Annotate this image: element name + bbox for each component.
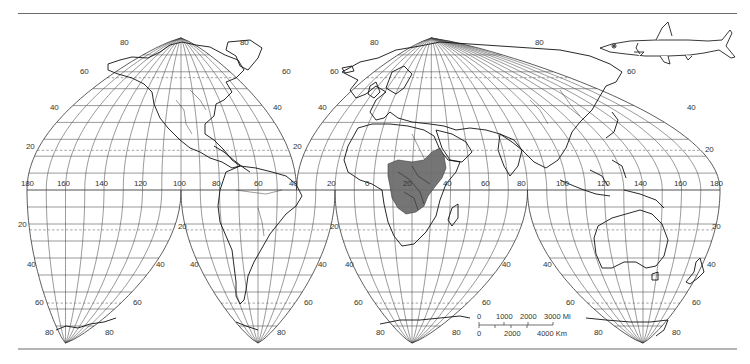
- longitude-label: 60: [254, 180, 263, 188]
- latitude-label: 60: [80, 68, 89, 76]
- latitude-label: 60: [482, 299, 491, 307]
- longitude-label: 180: [710, 180, 723, 188]
- latitude-label: 40: [50, 104, 59, 112]
- longitude-label: 180: [21, 180, 34, 188]
- meridian: [66, 190, 143, 343]
- latitude-label: 20: [705, 146, 714, 154]
- meridian: [431, 38, 643, 190]
- latitude-label: 40: [687, 104, 696, 112]
- latitude-label: 60: [133, 299, 142, 307]
- latitude-label: 20: [330, 223, 339, 231]
- longitude-label: 120: [597, 180, 610, 188]
- latitude-label: 60: [692, 299, 701, 307]
- latitude-label: 40: [707, 261, 716, 269]
- latitude-label: 40: [27, 261, 36, 269]
- longitude-label: 140: [95, 180, 108, 188]
- latitude-label: 80: [240, 39, 249, 47]
- longitude-label: 80: [517, 180, 526, 188]
- indonesia-outline: [560, 160, 664, 208]
- latitude-label: 60: [35, 299, 44, 307]
- longitude-label: 40: [443, 180, 452, 188]
- eurasia-outline: [342, 42, 622, 168]
- meridian: [123, 38, 181, 190]
- latitude-label: 80: [120, 39, 129, 47]
- longitude-label: 140: [634, 180, 647, 188]
- latitude-label: 80: [105, 329, 114, 337]
- latitude-label: 80: [45, 329, 54, 337]
- latitude-label: 80: [535, 39, 544, 47]
- longitude-label: 20: [403, 180, 412, 188]
- scale-bar: [479, 322, 553, 328]
- australia-outline: [594, 210, 668, 268]
- longitude-label: 20: [327, 180, 336, 188]
- longitude-label: 60: [481, 180, 490, 188]
- meridian: [431, 38, 720, 190]
- meridian: [431, 38, 701, 190]
- meridian: [46, 190, 65, 343]
- latitude-label: 40: [318, 104, 327, 112]
- scale-mi-3000: 3000 Mi: [544, 313, 571, 321]
- meridian: [46, 38, 181, 190]
- latitude-label: 20: [293, 143, 302, 151]
- tasmania-outline: [652, 272, 658, 280]
- latitude-label: 40: [318, 261, 327, 269]
- longitude-label: 80: [212, 180, 221, 188]
- meridian: [66, 38, 182, 190]
- longitude-label: 120: [134, 180, 147, 188]
- latitude-label: 80: [370, 39, 379, 47]
- species-range-area: [388, 148, 446, 214]
- latitude-label: 80: [672, 329, 681, 337]
- scale-mi-0: 0: [477, 313, 481, 321]
- latitude-label: 60: [627, 68, 636, 76]
- latitude-label: 40: [543, 261, 552, 269]
- fish-icon: [600, 22, 735, 64]
- scandinavia-outline: [386, 66, 412, 94]
- longitude-label: 160: [57, 180, 70, 188]
- longitude-label: 100: [556, 180, 569, 188]
- meridian: [239, 190, 258, 343]
- antarctica-outline: [56, 316, 668, 336]
- meridian: [200, 190, 258, 343]
- longitude-label: 40: [289, 180, 298, 188]
- meridian: [104, 38, 181, 190]
- latitude-label: 80: [376, 329, 385, 337]
- meridian: [624, 190, 643, 343]
- latitude-label: 60: [354, 299, 363, 307]
- longitude-label: 0: [365, 180, 369, 188]
- north-america-outline: [108, 42, 244, 168]
- meridian: [66, 190, 85, 343]
- japan-outline: [606, 112, 618, 138]
- longitude-label: 160: [674, 180, 687, 188]
- latitude-label: 80: [452, 329, 461, 337]
- latitude-label: 40: [273, 104, 282, 112]
- meridian: [431, 38, 547, 190]
- latitude-label: 80: [277, 329, 286, 337]
- scale-km-2000: 2000: [504, 330, 521, 338]
- tropic-lines: [30, 78, 715, 303]
- latitude-label: 40: [502, 261, 511, 269]
- scale-km-4000: 4000 Km: [537, 330, 567, 338]
- latitude-label: 40: [156, 261, 165, 269]
- latitude-label: 20: [712, 223, 721, 231]
- latitude-label: 60: [304, 299, 313, 307]
- latitude-label: 20: [26, 143, 35, 151]
- latitude-label: 40: [345, 261, 354, 269]
- longitude-label: 100: [173, 180, 186, 188]
- british-isles-outline: [368, 82, 380, 98]
- latitude-label: 60: [566, 299, 575, 307]
- meridian: [431, 38, 566, 190]
- latitude-label: 60: [330, 68, 339, 76]
- continents: [56, 40, 704, 336]
- latitude-label: 40: [190, 261, 199, 269]
- latitude-label: 60: [282, 68, 291, 76]
- latitude-label: 20: [178, 223, 187, 231]
- scale-mi-1000: 1000: [496, 313, 513, 321]
- latitude-label: 80: [594, 329, 603, 337]
- iceland-outline: [342, 66, 354, 73]
- meridian: [258, 190, 277, 343]
- meridian: [162, 38, 181, 190]
- new-zealand-outline: [686, 258, 704, 284]
- scale-mi-2000: 2000: [520, 313, 537, 321]
- meridian: [181, 38, 200, 190]
- latitude-label: 20: [18, 221, 27, 229]
